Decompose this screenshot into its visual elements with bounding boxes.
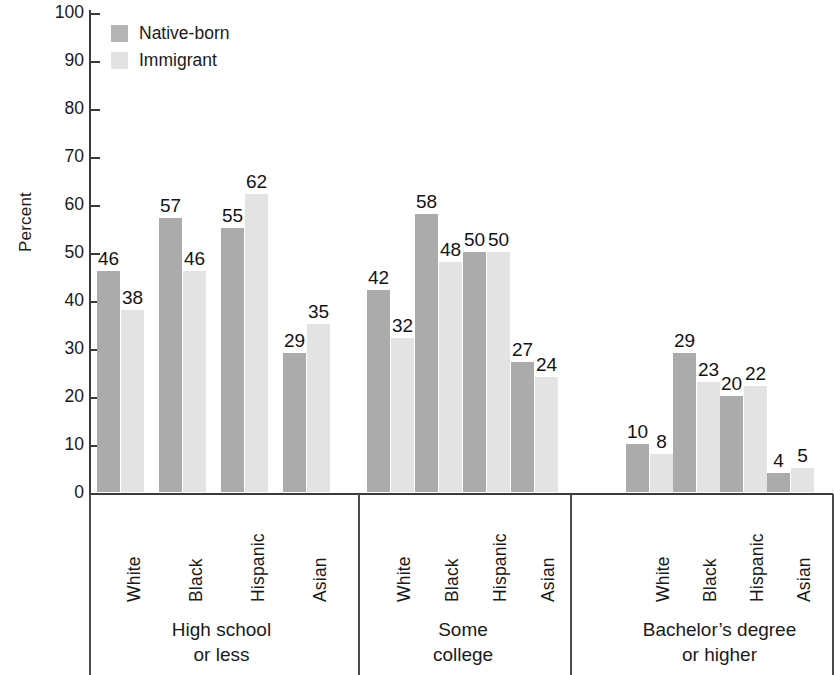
bar: 4 (767, 473, 790, 492)
bar: 23 (697, 382, 720, 492)
y-axis-tick-label: 70 (65, 146, 84, 166)
bar: 50 (463, 252, 486, 492)
y-axis-tick: 90 (91, 61, 100, 63)
y-axis-tick-label: 60 (65, 194, 84, 214)
bar: 58 (415, 214, 438, 492)
bar: 42 (367, 290, 390, 492)
bar-value-label: 46 (184, 248, 205, 269)
category-label: Black (700, 558, 721, 602)
y-axis-tick-label: 100 (55, 2, 84, 22)
bar-value-label: 46 (98, 248, 119, 269)
bar-value-label: 27 (512, 339, 533, 360)
bar-value-label: 50 (488, 229, 509, 250)
y-axis-tick-label: 10 (65, 434, 84, 454)
bar-value-label: 42 (368, 267, 389, 288)
bar: 8 (650, 454, 673, 492)
y-axis-tick-label: 20 (65, 386, 84, 406)
group-title: Bachelor’s degreeor higher (616, 617, 823, 667)
bar-value-label: 10 (627, 421, 648, 442)
y-axis-tick-label: 30 (65, 338, 84, 358)
bar: 55 (221, 228, 244, 492)
bar: 24 (535, 377, 558, 492)
bar: 29 (673, 353, 696, 492)
category-label: Asian (538, 557, 559, 602)
bar-value-label: 22 (745, 363, 766, 384)
y-axis-tick: 100 (91, 13, 100, 15)
group-title-line-2: or less (87, 642, 356, 667)
bar: 46 (97, 271, 120, 492)
category-label: White (124, 556, 145, 602)
bar: 29 (283, 353, 306, 492)
legend-label: Native-born (139, 23, 229, 44)
category-label: Hispanic (248, 533, 269, 602)
bar: 57 (159, 218, 182, 492)
bar-value-label: 23 (698, 359, 719, 380)
bar: 27 (511, 362, 534, 492)
category-label: Black (442, 558, 463, 602)
y-axis-title: Percent (16, 162, 36, 282)
bar-value-label: 5 (797, 445, 808, 466)
bar-value-label: 24 (536, 354, 557, 375)
category-label: Black (186, 558, 207, 602)
chart-legend: Native-bornImmigrant (111, 20, 229, 74)
legend-item-immigrant: Immigrant (111, 47, 229, 74)
group-separator (89, 494, 91, 675)
bar: 46 (183, 271, 206, 492)
bar: 5 (791, 468, 814, 492)
category-label: White (394, 556, 415, 602)
legend-label: Immigrant (139, 50, 217, 71)
y-axis-tick: 80 (91, 109, 100, 111)
bar-value-label: 29 (674, 330, 695, 351)
y-axis-tick: 60 (91, 205, 100, 207)
category-label-band: WhiteBlackHispanicAsianHigh schoolor les… (89, 494, 833, 675)
bar-value-label: 62 (246, 171, 267, 192)
legend-swatch-icon (111, 25, 128, 42)
bar: 38 (121, 310, 144, 492)
category-label: Asian (794, 557, 815, 602)
group-separator (570, 494, 572, 675)
category-label: White (653, 556, 674, 602)
group-title-line-2: or higher (616, 642, 823, 667)
group-title-line-1: Some (357, 617, 569, 642)
y-axis-tick-label: 0 (74, 482, 84, 502)
category-label: Asian (310, 557, 331, 602)
bar-value-label: 58 (416, 191, 437, 212)
bar: 10 (626, 444, 649, 492)
y-axis-tick-label: 40 (65, 290, 84, 310)
bar-value-label: 48 (440, 239, 461, 260)
bar: 22 (744, 386, 767, 492)
category-label: Hispanic (747, 533, 768, 602)
bar-value-label: 4 (773, 450, 784, 471)
y-axis-tick-label: 90 (65, 50, 84, 70)
group-separator (358, 494, 360, 675)
bar-value-label: 20 (721, 373, 742, 394)
group-title-line-1: High school (87, 617, 356, 642)
group-title: High schoolor less (87, 617, 356, 667)
legend-swatch-icon (111, 52, 128, 69)
bar: 32 (391, 338, 414, 492)
category-label: Hispanic (490, 533, 511, 602)
y-axis-tick-label: 80 (65, 98, 84, 118)
y-axis-tick: 70 (91, 157, 100, 159)
bar-value-label: 50 (464, 229, 485, 250)
group-title-line-1: Bachelor’s degree (616, 617, 823, 642)
bar-value-label: 32 (392, 315, 413, 336)
legend-item-native: Native-born (111, 20, 229, 47)
bar: 50 (487, 252, 510, 492)
bar: 62 (245, 194, 268, 492)
bar: 48 (439, 262, 462, 492)
bar-value-label: 35 (308, 301, 329, 322)
bar-value-label: 38 (122, 287, 143, 308)
group-title: Somecollege (357, 617, 569, 667)
bar: 35 (307, 324, 330, 492)
y-axis-tick-label: 50 (65, 242, 84, 262)
plot-area: 1009080706050403020100 46385746556229354… (89, 10, 833, 494)
bar-value-label: 8 (656, 431, 667, 452)
bar-value-label: 55 (222, 205, 243, 226)
group-title-line-2: college (357, 642, 569, 667)
bar-value-label: 57 (160, 195, 181, 216)
bar: 20 (720, 396, 743, 492)
bar-value-label: 29 (284, 330, 305, 351)
